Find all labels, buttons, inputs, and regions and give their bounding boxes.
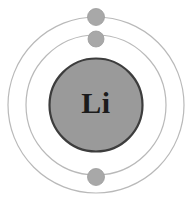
bohr-model-diagram: Li <box>0 0 194 208</box>
electron-outer-top <box>88 9 105 26</box>
element-symbol-label: Li <box>81 86 110 119</box>
atom-diagram-svg: Li <box>0 0 194 208</box>
electron-inner-bottom <box>88 169 105 186</box>
electron-inner-top <box>88 31 104 47</box>
